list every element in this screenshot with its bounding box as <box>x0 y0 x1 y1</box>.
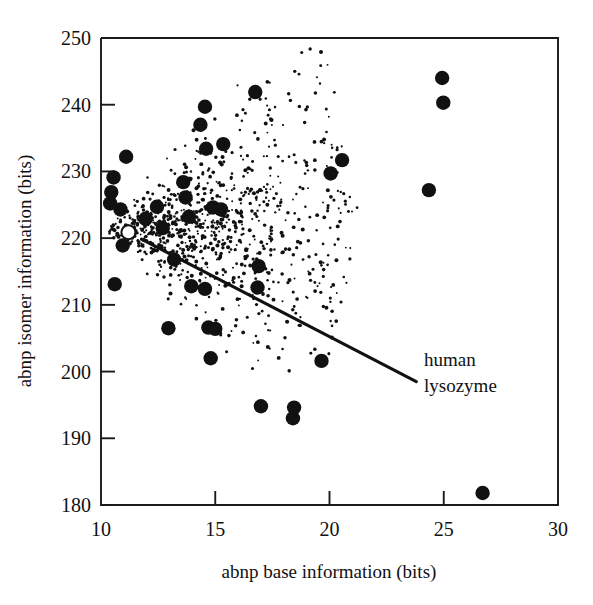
background-dot <box>330 156 333 159</box>
background-dot <box>180 228 182 230</box>
background-dot <box>314 91 318 95</box>
background-dot <box>269 330 271 332</box>
background-dot <box>140 228 144 232</box>
background-dot <box>263 155 265 157</box>
human-lysozyme-marker <box>121 225 135 239</box>
background-dot <box>249 202 252 205</box>
background-dot <box>255 196 258 199</box>
background-dot <box>188 235 192 239</box>
background-dot <box>258 251 262 255</box>
background-dot <box>131 222 134 225</box>
background-dot <box>241 108 244 111</box>
background-dot <box>165 202 167 204</box>
data-point <box>184 279 198 293</box>
background-dot <box>299 316 301 318</box>
background-dot <box>119 234 121 236</box>
background-dot <box>264 322 267 325</box>
background-dot <box>210 189 214 193</box>
data-point <box>248 85 262 99</box>
background-dot <box>210 225 214 229</box>
background-dot <box>155 235 157 237</box>
background-dot <box>170 169 173 172</box>
background-dot <box>345 247 347 249</box>
background-dot <box>144 236 146 238</box>
background-dot <box>173 268 176 271</box>
background-dot <box>274 211 276 213</box>
background-dot <box>181 252 184 255</box>
background-dot <box>305 164 309 168</box>
background-dot <box>177 274 180 277</box>
background-dot <box>112 236 115 239</box>
background-dot <box>169 214 173 218</box>
background-dot <box>201 198 205 202</box>
background-dot <box>222 239 224 241</box>
annotation-human: human <box>424 349 476 370</box>
background-dot <box>201 213 203 215</box>
data-point <box>119 150 133 164</box>
background-dot <box>267 314 270 317</box>
y-tick-label: 250 <box>61 27 91 49</box>
y-tick-label: 180 <box>61 494 91 516</box>
background-dot <box>312 268 315 271</box>
background-dot <box>303 121 306 124</box>
background-dot <box>211 230 213 232</box>
background-dot <box>266 183 269 186</box>
background-dot <box>206 226 209 229</box>
background-dot <box>269 118 273 122</box>
background-dot <box>287 247 291 251</box>
scatter-plot-figure: 180190200210220230240250 1015202530 huma… <box>0 0 593 605</box>
background-dot <box>327 352 330 355</box>
background-dot <box>261 310 264 313</box>
background-dot <box>259 240 263 244</box>
x-tick-label: 30 <box>548 518 568 540</box>
background-dot <box>348 257 351 260</box>
y-tick-label: 230 <box>61 160 91 182</box>
background-dot <box>283 336 287 340</box>
background-dot <box>173 148 176 151</box>
background-dot <box>207 182 209 184</box>
background-dot <box>204 137 207 140</box>
background-dot <box>222 228 224 230</box>
background-dot <box>231 279 233 281</box>
background-dot <box>163 186 165 188</box>
background-dot <box>170 235 173 238</box>
background-dot <box>181 269 184 272</box>
background-dot <box>228 228 232 232</box>
data-point <box>208 322 222 336</box>
background-dot <box>255 215 258 218</box>
background-dot <box>281 300 283 302</box>
background-dot <box>154 215 157 218</box>
background-dot <box>356 206 359 209</box>
background-dot <box>313 289 317 293</box>
background-dot <box>241 331 245 335</box>
background-dot <box>246 187 249 190</box>
background-dot <box>236 244 238 246</box>
background-dot <box>269 175 271 177</box>
background-dot <box>319 64 322 67</box>
data-point <box>155 221 169 235</box>
background-dot <box>194 260 198 264</box>
data-point <box>150 200 164 214</box>
background-dot <box>167 297 170 300</box>
background-dot <box>240 192 243 195</box>
background-dot <box>232 267 234 269</box>
background-dot <box>290 264 292 266</box>
background-dot <box>183 209 185 211</box>
background-dot <box>337 237 340 240</box>
human-lysozyme-leader-line <box>141 239 416 381</box>
background-dot <box>201 238 203 240</box>
data-point <box>106 170 120 184</box>
background-dot <box>175 228 178 231</box>
background-dot <box>158 184 161 187</box>
background-dot <box>272 298 276 302</box>
background-dot <box>208 175 212 179</box>
background-dot <box>240 284 244 288</box>
background-dot <box>233 187 236 190</box>
background-dot <box>330 286 332 288</box>
background-dot <box>309 279 312 282</box>
background-dot <box>230 248 233 251</box>
background-dot <box>142 208 146 212</box>
background-dot <box>221 307 225 311</box>
background-dot <box>252 235 255 238</box>
background-dot <box>250 209 254 213</box>
